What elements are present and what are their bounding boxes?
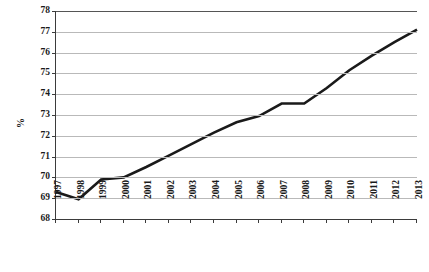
- x-tick-label-2000: 2000: [122, 180, 132, 224]
- x-tick-label-2004: 2004: [212, 180, 222, 224]
- gridline-77: [56, 32, 417, 33]
- x-tick-label-2012: 2012: [392, 180, 402, 224]
- y-tick-label-68: 68: [26, 214, 50, 224]
- x-tick-label-2009: 2009: [325, 180, 335, 224]
- y-tick-mark-73: [52, 115, 56, 116]
- x-tick-label-2001: 2001: [144, 180, 154, 224]
- y-tick-label-70: 70: [26, 173, 50, 183]
- y-tick-mark-78: [52, 11, 56, 12]
- x-tick-label-1998: 1998: [77, 180, 87, 224]
- y-axis-tick-labels: 6869707172737475767778: [26, 11, 50, 219]
- x-tick-label-2003: 2003: [189, 180, 199, 224]
- y-tick-label-72: 72: [26, 131, 50, 141]
- x-tick-label-2010: 2010: [347, 180, 357, 224]
- y-tick-mark-74: [52, 94, 56, 95]
- x-tick-label-2005: 2005: [235, 180, 245, 224]
- gridline-76: [56, 53, 417, 54]
- gridline-75: [56, 73, 417, 74]
- y-tick-mark-76: [52, 53, 56, 54]
- y-tick-label-69: 69: [26, 193, 50, 203]
- x-tick-label-2008: 2008: [302, 180, 312, 224]
- x-tick-label-2002: 2002: [167, 180, 177, 224]
- line-chart: % 6869707172737475767778 199719981999200…: [0, 0, 429, 272]
- y-tick-label-71: 71: [26, 152, 50, 162]
- x-tick-label-1999: 1999: [99, 180, 109, 224]
- gridline-72: [56, 136, 417, 137]
- x-tick-label-2011: 2011: [370, 180, 380, 224]
- x-tick-label-2007: 2007: [280, 180, 290, 224]
- y-tick-label-78: 78: [26, 6, 50, 16]
- y-tick-mark-72: [52, 136, 56, 137]
- gridline-74: [56, 94, 417, 95]
- x-tick-label-1997: 1997: [54, 180, 64, 224]
- x-axis-tick-labels: 1997199819992000200120022003200420052006…: [55, 224, 416, 270]
- y-tick-label-77: 77: [26, 27, 50, 37]
- y-tick-label-74: 74: [26, 89, 50, 99]
- x-tick-label-2006: 2006: [257, 180, 267, 224]
- y-tick-label-76: 76: [26, 48, 50, 58]
- y-tick-label-73: 73: [26, 110, 50, 120]
- gridline-71: [56, 157, 417, 158]
- gridline-73: [56, 115, 417, 116]
- gridline-70: [56, 177, 417, 178]
- y-tick-mark-75: [52, 73, 56, 74]
- y-tick-mark-71: [52, 157, 56, 158]
- y-tick-mark-77: [52, 32, 56, 33]
- y-tick-mark-70: [52, 177, 56, 178]
- gridline-78: [56, 11, 417, 12]
- y-tick-label-75: 75: [26, 69, 50, 79]
- x-tick-label-2013: 2013: [415, 180, 425, 224]
